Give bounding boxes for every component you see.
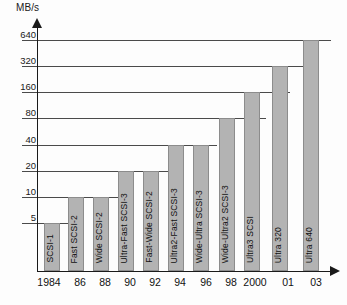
x-tick-label-03: 03 [296, 276, 336, 288]
bar-label-wrap: Wide SCSI-2 [94, 212, 108, 267]
scsi-bandwidth-bar-chart: MB/s 640 320 160 80 40 20 10 5 SCSI-1 Fa… [0, 0, 347, 305]
bar-label-ultra-fast-scsi-3: Ultra-Fast SCSI-3 [119, 193, 130, 263]
y-tick-label-40: 40 [14, 134, 36, 145]
bar-label-fast-scsi-2: Fast SCSI-2 [69, 215, 80, 264]
bar-scsi-1: SCSI-1 [44, 223, 60, 271]
y-axis-unit-label: MB/s [16, 2, 39, 13]
y-tick-label-320: 320 [14, 55, 36, 66]
bar-label-wide-scsi-2: Wide SCSI-2 [94, 212, 105, 263]
bar-label-fast-wide-scsi-2: Fast-Wide SCSI-2 [144, 191, 155, 263]
bar-label-scsi-1: SCSI-1 [45, 234, 56, 263]
x-axis-line [37, 271, 331, 272]
bar-label-ultra-320: Ultra 320 [273, 227, 284, 263]
bar-fast-scsi-2: Fast SCSI-2 [68, 197, 84, 271]
bar-ultra3-scsi: Ultra3 SCSI [244, 92, 260, 271]
bar-fast-wide-scsi-2: Fast-Wide SCSI-2 [143, 171, 159, 271]
bar-label-wrap: Fast SCSI-2 [69, 215, 83, 268]
bar-wide-ultra2-scsi-3: Wide-Ultra2 SCSI-3 [219, 118, 235, 271]
y-tick-label-80: 80 [14, 107, 36, 118]
bar-label-ultra-640: Ultra 640 [304, 227, 315, 263]
bar-wide-ultra-scsi-3: Wide-Ultra SCSI-3 [193, 145, 209, 271]
bar-label-wide-ultra-scsi-3: Wide-Ultra SCSI-3 [194, 190, 205, 263]
bar-label-wrap: Fast-Wide SCSI-2 [144, 191, 158, 267]
bar-label-ultra3-scsi: Ultra3 SCSI [245, 216, 256, 263]
bar-ultra2-fast-scsi-3: Ultra2-Fast SCSI-3 [168, 145, 184, 271]
y-tick-label-5: 5 [14, 212, 36, 223]
bar-label-ultra2-fast-scsi-3: Ultra2-Fast SCSI-3 [169, 188, 180, 263]
y-tick-label-640: 640 [14, 29, 36, 40]
bar-wide-scsi-2: Wide SCSI-2 [93, 197, 109, 271]
bar-label-wrap: Wide-Ultra SCSI-3 [194, 190, 208, 267]
bar-label-wrap: Ultra 320 [273, 227, 287, 267]
bar-label-wrap: Ultra-Fast SCSI-3 [119, 193, 133, 267]
bar-ultra-fast-scsi-3: Ultra-Fast SCSI-3 [118, 171, 134, 271]
bar-label-wrap: SCSI-1 [45, 234, 59, 267]
x-axis-arrow-icon [330, 266, 340, 276]
bar-label-wrap: Wide-Ultra2 SCSI-3 [220, 185, 234, 267]
bar-label-wrap: Ultra3 SCSI [245, 216, 259, 267]
y-tick-label-160: 160 [14, 81, 36, 92]
bar-label-wrap: Ultra 640 [304, 227, 318, 267]
bar-ultra-640: Ultra 640 [303, 40, 319, 271]
y-tick-label-10: 10 [14, 186, 36, 197]
bar-label-wrap: Ultra2-Fast SCSI-3 [169, 188, 183, 267]
y-tick-label-20: 20 [14, 160, 36, 171]
bar-label-wide-ultra2-scsi-3: Wide-Ultra2 SCSI-3 [220, 185, 231, 263]
bar-ultra-320: Ultra 320 [272, 66, 288, 271]
plot-area: SCSI-1 Fast SCSI-2 Wide SCSI-2 Ultra-Fas… [38, 26, 331, 271]
